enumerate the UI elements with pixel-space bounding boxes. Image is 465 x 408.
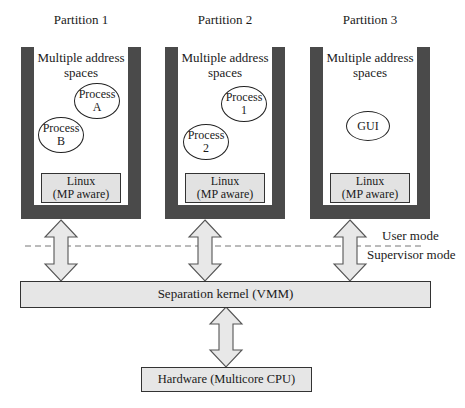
double-arrow-icon: [210, 307, 242, 367]
double-arrow-icon: [334, 220, 366, 281]
supervisor-mode-label: Supervisor mode: [367, 247, 455, 263]
double-arrow-icon: [45, 220, 77, 281]
connectors: [0, 0, 465, 408]
hardware-box: Hardware (Multicore CPU): [141, 367, 312, 392]
double-arrow-icon: [189, 220, 221, 281]
separation-kernel-box: Separation kernel (VMM): [20, 281, 431, 308]
user-mode-label: User mode: [382, 228, 439, 244]
